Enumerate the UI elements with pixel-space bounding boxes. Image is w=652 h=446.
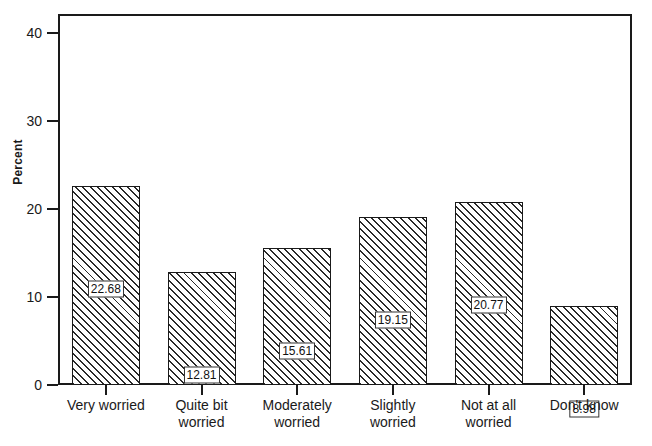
x-tick-mark xyxy=(201,385,203,395)
x-axis-category-label-line: Very worried xyxy=(67,397,145,414)
y-tick-mark xyxy=(47,208,58,210)
y-tick-mark xyxy=(47,120,58,122)
x-axis-category-label: Not at allworried xyxy=(461,397,516,431)
y-tick-mark xyxy=(47,296,58,298)
x-axis-category-label-line: Not at all xyxy=(461,397,516,414)
plot-area xyxy=(58,14,632,385)
bar xyxy=(263,248,331,385)
x-axis-category-label-line: Slightly xyxy=(370,397,416,414)
y-tick-label: 20 xyxy=(0,199,42,219)
bar-value-label: 20.77 xyxy=(470,297,506,314)
x-axis-category-label: Don't know xyxy=(550,397,619,414)
bar-value-label: 22.68 xyxy=(88,280,124,297)
bar xyxy=(455,202,523,385)
y-tick-label: 30 xyxy=(0,111,42,131)
x-axis-category-label-line: Quite bit xyxy=(175,397,227,414)
x-tick-mark xyxy=(583,385,585,395)
bar-value-label: 19.15 xyxy=(375,311,411,328)
x-tick-mark xyxy=(392,385,394,395)
x-tick-mark xyxy=(296,385,298,395)
y-tick-label: 0 xyxy=(0,375,42,395)
y-tick-label: 10 xyxy=(0,287,42,307)
x-axis-category-label-line: worried xyxy=(370,414,416,431)
bar xyxy=(550,306,618,385)
x-axis-category-label-line: worried xyxy=(263,414,332,431)
x-axis-category-label-line: worried xyxy=(461,414,516,431)
y-tick-mark xyxy=(47,32,58,34)
y-axis-title: Percent xyxy=(11,127,25,197)
x-axis-category-label-line: Don't know xyxy=(550,397,619,414)
x-axis-category-label-line: Moderately xyxy=(263,397,332,414)
x-axis-category-label: Very worried xyxy=(67,397,145,414)
x-axis-category-label: Quite bitworried xyxy=(175,397,227,431)
x-axis-category-label: Slightlyworried xyxy=(370,397,416,431)
bar-value-label: 15.61 xyxy=(279,342,315,359)
x-axis-category-label: Moderatelyworried xyxy=(263,397,332,431)
x-tick-mark xyxy=(488,385,490,395)
x-axis-category-label-line: worried xyxy=(175,414,227,431)
x-tick-mark xyxy=(105,385,107,395)
bar xyxy=(359,217,427,385)
y-tick-mark xyxy=(47,384,58,386)
y-tick-label: 40 xyxy=(0,23,42,43)
bar-chart: Percent 010203040 22.6812.8115.6119.1520… xyxy=(0,0,652,446)
bar-value-label: 12.81 xyxy=(183,367,219,384)
